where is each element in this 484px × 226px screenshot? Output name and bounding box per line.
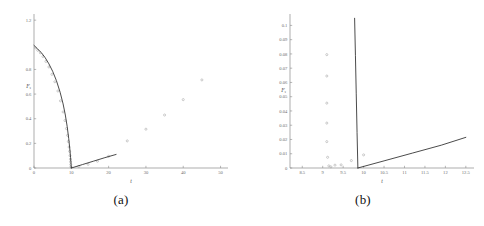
x-tick-label: 12 [443,170,448,175]
data-point [326,122,328,124]
data-point [51,73,53,75]
y-tick-label: 0.08 [279,52,288,57]
data-point [59,100,61,102]
data-point [126,140,128,142]
y-tick-label: 0.2 [26,141,32,146]
x-tick-label: 9 [322,170,325,175]
data-point [363,154,365,156]
theory-curve [358,137,466,168]
data-point [164,114,166,116]
y-tick-label: 0.06 [279,80,288,85]
y-tick-label: 0 [285,166,288,171]
y-tick-label: 0.09 [279,37,288,42]
x-axis-title: t [381,178,383,184]
x-tick-label: 12.5 [462,170,471,175]
data-point [62,111,64,113]
y-tick-label: 1.2 [26,18,32,23]
x-tick-label: 10 [69,170,74,175]
data-point [182,99,184,101]
data-point [327,156,329,158]
data-point [326,54,328,56]
plot-svg-b: 8.599.51010.51111.51212.500.010.020.030.… [242,0,484,192]
x-tick-label: 11.5 [421,170,430,175]
data-point [326,141,328,143]
theory-curve [34,45,71,168]
y-tick-label: 0.07 [279,66,288,71]
x-axis-title: t [130,178,132,184]
y-tick-label: 0.03 [279,123,288,128]
data-point [326,102,328,104]
data-point [201,79,203,81]
y-tick-label: 0.04 [279,109,288,114]
plot-svg-a: 0102030405000.20.40.60.81.2tFs [0,0,242,192]
data-point [334,164,336,166]
theory-curve [71,154,116,168]
figure-two-panel: 0102030405000.20.40.60.81.2tFs (a) 8.599… [0,0,484,226]
panel-b-caption: (b) [242,192,484,208]
x-tick-label: 50 [218,170,223,175]
y-tick-label: 0.1 [282,23,288,28]
y-tick-label: 0 [29,166,32,171]
y-tick-label: 0.8 [26,67,32,72]
data-point [340,164,342,166]
y-tick-label: 0.6 [26,92,32,97]
x-tick-label: 40 [181,170,186,175]
y-tick-label: 0.05 [279,94,288,99]
y-axis-title: Fs [25,83,31,90]
theory-curve [355,18,358,168]
x-tick-label: 10 [361,170,366,175]
panel-b: 8.599.51010.51111.51212.500.010.020.030.… [242,0,484,226]
data-point [54,81,56,83]
data-point [328,165,330,167]
y-tick-label: 0.01 [279,151,288,156]
x-tick-label: 11 [402,170,407,175]
data-point [326,75,328,77]
plot-area-b: 8.599.51010.51111.51212.500.010.020.030.… [242,0,484,192]
panel-a: 0102030405000.20.40.60.81.2tFs (a) [0,0,242,226]
x-tick-label: 30 [144,170,149,175]
y-tick-label: 0.02 [279,137,288,142]
y-axis-title: Fs [280,87,286,94]
x-tick-label: 8.5 [299,170,305,175]
data-point [57,90,59,92]
data-point [330,166,332,168]
panel-a-caption: (a) [0,192,242,208]
x-tick-label: 20 [106,170,111,175]
y-tick-label: 0.4 [26,116,32,121]
data-point [145,128,147,130]
data-point [87,163,89,165]
x-tick-label: 10.5 [380,170,389,175]
data-point [350,160,352,162]
x-tick-label: 9.5 [340,170,346,175]
plot-area-a: 0102030405000.20.40.60.81.2tFs [0,0,242,192]
x-tick-label: 0 [33,170,36,175]
